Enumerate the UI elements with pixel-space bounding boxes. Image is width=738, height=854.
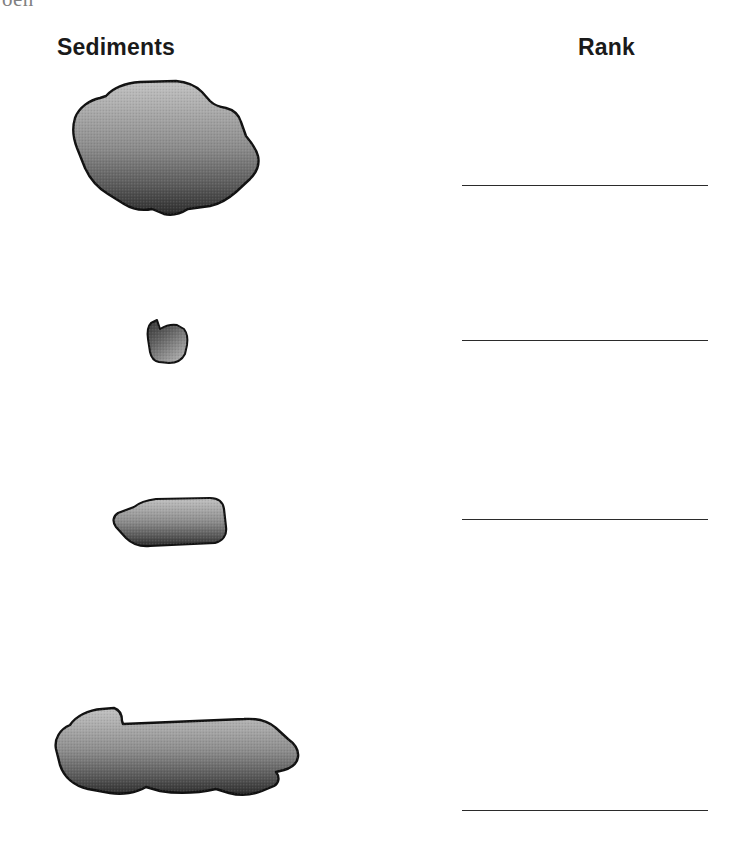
rock-illustration-small-angular: [143, 317, 193, 365]
rank-answer-line-2[interactable]: [462, 340, 708, 341]
sediment-specimen-3: [110, 495, 232, 551]
rock-illustration-large-rounded: [68, 78, 264, 218]
sediment-specimen-2: [143, 317, 193, 365]
page-edge-text-artifact: oen: [2, 0, 34, 12]
sediment-specimen-1: [68, 78, 264, 218]
worksheet-page: oen Sediments Rank: [0, 0, 738, 854]
sediment-specimen-4: [48, 697, 314, 799]
rank-answer-line-1[interactable]: [462, 185, 708, 186]
rank-answer-line-3[interactable]: [462, 519, 708, 520]
column-header-sediments: Sediments: [57, 34, 175, 61]
rock-illustration-large-elongate: [48, 697, 314, 799]
rock-illustration-elongate-tapered: [110, 495, 232, 551]
rank-answer-line-4[interactable]: [462, 810, 708, 811]
column-header-rank: Rank: [578, 34, 635, 61]
